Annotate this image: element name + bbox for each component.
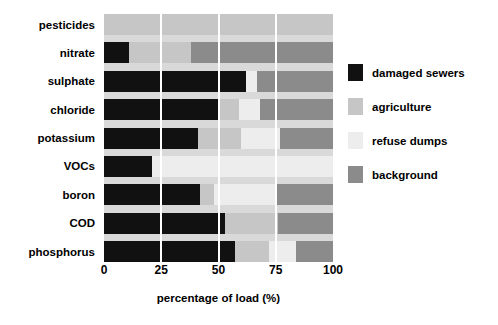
category-label: phosphorus — [29, 246, 95, 258]
bar-segment — [104, 184, 200, 205]
bar-segment — [276, 184, 333, 205]
bar-rows — [104, 14, 333, 262]
category-label: chloride — [50, 104, 95, 116]
bar-row — [104, 71, 333, 92]
bar-segment — [200, 184, 214, 205]
bar-segment — [104, 156, 152, 177]
category-label: pesticides — [39, 19, 95, 31]
category-label: nitrate — [60, 47, 95, 59]
legend-swatch-icon — [348, 98, 363, 115]
bar-segment — [198, 128, 242, 149]
x-tick-label: 75 — [269, 263, 282, 277]
bar-segment — [104, 241, 235, 262]
legend-swatch-icon — [348, 64, 363, 81]
x-tick-label: 50 — [212, 263, 225, 277]
category-axis-labels: pesticidesnitratesulphatechloridepotassi… — [0, 14, 100, 262]
x-axis-title: percentage of load (%) — [104, 292, 333, 304]
x-axis-ticks: 0255075100 — [104, 263, 333, 281]
bar-segment — [260, 99, 333, 120]
bar-segment — [239, 99, 260, 120]
category-label: boron — [62, 189, 95, 201]
bar-segment — [278, 213, 333, 234]
legend-item: agriculture — [348, 98, 465, 115]
chart-root: pesticidesnitratesulphatechloridepotassi… — [0, 0, 498, 325]
bar-segment — [296, 241, 333, 262]
bar-segment — [225, 213, 278, 234]
bar-segment — [104, 14, 333, 35]
legend-item: refuse dumps — [348, 132, 465, 149]
bar-row — [104, 213, 333, 234]
category-label: potassium — [37, 132, 95, 144]
bar-segment — [214, 184, 276, 205]
legend-item: background — [348, 166, 465, 183]
bar-segment — [152, 156, 333, 177]
bar-row — [104, 241, 333, 262]
x-tick-label: 0 — [101, 263, 108, 277]
bar-segment — [129, 42, 191, 63]
bar-segment — [191, 42, 333, 63]
bar-segment — [246, 71, 257, 92]
bar-segment — [104, 99, 219, 120]
bar-segment — [104, 128, 198, 149]
bar-row — [104, 14, 333, 35]
legend-item: damaged sewers — [348, 64, 465, 81]
x-tick-label: 100 — [323, 263, 343, 277]
x-tick-label: 25 — [155, 263, 168, 277]
bar-segment — [269, 241, 296, 262]
bar-row — [104, 184, 333, 205]
legend-label: damaged sewers — [372, 67, 465, 79]
legend-label: agriculture — [372, 101, 431, 113]
legend-label: background — [372, 169, 438, 181]
bar-row — [104, 42, 333, 63]
bar-segment — [257, 71, 333, 92]
legend-swatch-icon — [348, 166, 363, 183]
bar-segment — [104, 213, 225, 234]
bar-segment — [219, 99, 240, 120]
bar-row — [104, 99, 333, 120]
category-label: sulphate — [48, 75, 95, 87]
chart-legend: damaged sewersagriculturerefuse dumpsbac… — [348, 64, 465, 200]
bar-row — [104, 156, 333, 177]
category-label: COD — [69, 217, 95, 229]
bar-row — [104, 128, 333, 149]
bar-segment — [104, 71, 246, 92]
category-label: VOCs — [64, 160, 95, 172]
plot-area — [104, 14, 333, 262]
legend-label: refuse dumps — [372, 135, 447, 147]
legend-swatch-icon — [348, 132, 363, 149]
bar-segment — [241, 128, 280, 149]
bar-segment — [280, 128, 333, 149]
bar-segment — [235, 241, 269, 262]
bar-segment — [104, 42, 129, 63]
